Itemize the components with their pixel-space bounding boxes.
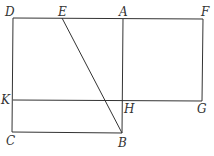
segment-CB	[12, 132, 122, 133]
segment-EB	[62, 18, 122, 133]
segment-DF	[13, 18, 203, 19]
segment-AB	[122, 19, 123, 133]
segment-FG	[202, 19, 203, 101]
segment-KG	[13, 100, 202, 101]
label-F: F	[200, 5, 210, 19]
label-D: D	[4, 5, 15, 19]
label-C: C	[6, 134, 15, 148]
geometry-diagram: D E A F K H G C B	[0, 0, 214, 156]
label-H: H	[123, 102, 135, 116]
label-K: K	[0, 93, 11, 107]
label-E: E	[57, 5, 67, 19]
segment-DC	[12, 18, 13, 132]
label-B: B	[117, 136, 127, 150]
label-A: A	[118, 5, 128, 19]
label-G: G	[197, 102, 207, 116]
